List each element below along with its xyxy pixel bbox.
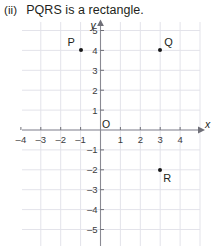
x-tick-label: 3: [151, 135, 169, 145]
x-tick-label: –4: [12, 135, 30, 145]
point-label-p: P: [68, 37, 75, 48]
point-dot-r: [158, 168, 162, 172]
x-tick-label: –1: [72, 135, 90, 145]
origin-label: O: [102, 119, 110, 130]
y-tick-label: –2: [80, 165, 98, 175]
axis-arrowheads: [97, 20, 205, 134]
y-axis-label: y: [91, 20, 96, 31]
point-label-r: R: [163, 173, 171, 184]
y-tick-label: 1: [80, 106, 98, 116]
question-text: PQRS is a rectangle.: [26, 3, 144, 17]
question-number: (ii): [4, 4, 17, 16]
y-tick-label: –1: [80, 145, 98, 155]
question-line: (ii) PQRS is a rectangle.: [0, 3, 219, 19]
x-tick-label: –2: [52, 135, 70, 145]
y-tick-label: –5: [80, 225, 98, 235]
x-tick-label: 1: [111, 135, 129, 145]
x-axis-arrowhead: [198, 127, 205, 134]
x-tick-label: 4: [171, 135, 189, 145]
x-axis-label: x: [205, 119, 210, 130]
x-tick-label: –3: [32, 135, 50, 145]
y-tick-label: 3: [80, 66, 98, 76]
y-tick-label: –3: [80, 185, 98, 195]
y-tick-label: 2: [80, 86, 98, 96]
y-axis-arrowhead: [97, 20, 104, 27]
coordinate-grid: –4–3–2–1123454321–1–2–3–4–5OyxPQR: [0, 18, 219, 250]
x-tick-label: 2: [131, 135, 149, 145]
point-label-q: Q: [164, 37, 173, 48]
y-tick-label: –4: [80, 205, 98, 215]
